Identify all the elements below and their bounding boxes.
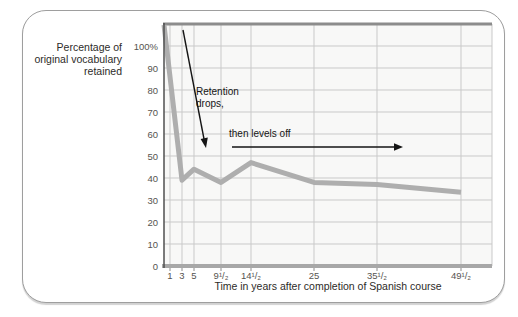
plot-area	[164, 24, 492, 266]
line-chart	[0, 0, 518, 317]
figure-canvas: Percentage of original vocabulary retain…	[0, 0, 518, 317]
